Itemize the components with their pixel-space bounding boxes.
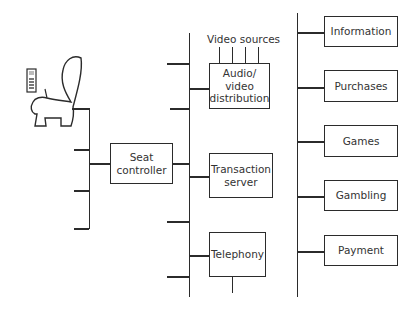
service-link (297, 196, 324, 198)
transaction-label-1: Transaction (211, 163, 271, 176)
purchases-box: Purchases (324, 70, 398, 102)
service-link (297, 141, 324, 143)
seat-controller-link (89, 163, 110, 165)
games-label: Games (343, 135, 380, 148)
seat-controller-to-bus (173, 163, 189, 165)
purchases-label: Purchases (334, 80, 387, 93)
main-bus-stub (170, 108, 189, 110)
information-label: Information (331, 25, 392, 38)
seat-bus-stub (74, 190, 89, 192)
seat-bus-stub (74, 228, 89, 230)
seat-controller-box: Seat controller (110, 143, 173, 184)
av-label-3: distribution (210, 92, 270, 105)
seat-controller-label-1: Seat (116, 151, 166, 164)
service-link (297, 32, 324, 34)
gambling-box: Gambling (324, 180, 398, 211)
video-source-line (219, 47, 221, 63)
payment-box: Payment (324, 235, 398, 266)
games-box: Games (324, 125, 398, 157)
video-source-line (232, 47, 234, 63)
seat-bus-stub (74, 149, 89, 151)
av-label-2: video (210, 80, 270, 93)
video-source-line (245, 47, 247, 63)
seat-controller-label-2: controller (116, 164, 166, 177)
transaction-label-2: server (211, 176, 271, 189)
seat-bus (89, 108, 91, 229)
av-label-1: Audio/ (210, 67, 270, 80)
main-bus-stub (167, 276, 189, 278)
av-link (189, 88, 209, 90)
transaction-server-box: Transaction server (209, 153, 273, 198)
main-bus-stub (167, 63, 189, 65)
av-distribution-box: Audio/ video distribution (209, 63, 270, 109)
service-link (297, 87, 324, 89)
telephony-box: Telephony (209, 232, 266, 277)
gambling-label: Gambling (336, 189, 387, 202)
seat-link (72, 108, 90, 110)
main-bus-stub (167, 221, 189, 223)
handset-icon (26, 68, 40, 94)
information-box: Information (324, 16, 398, 47)
telephony-out-line (232, 277, 234, 293)
services-bus (297, 13, 299, 297)
video-sources-label: Video sources (207, 33, 280, 45)
telephony-label: Telephony (211, 248, 264, 261)
main-bus (189, 33, 191, 297)
service-link (297, 251, 324, 253)
transaction-link (189, 176, 209, 178)
payment-label: Payment (338, 244, 384, 257)
video-source-line (258, 47, 260, 63)
telephony-link (189, 255, 209, 257)
